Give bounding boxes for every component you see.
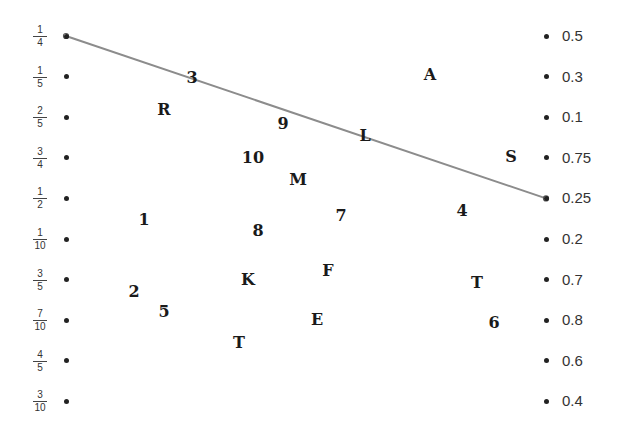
decimal-label: 0.8	[562, 312, 583, 328]
fraction-numerator: 1	[33, 66, 47, 78]
left-connect-dot[interactable]	[64, 115, 69, 120]
right-connect-dot[interactable]	[544, 196, 549, 201]
right-connect-dot[interactable]	[544, 277, 549, 282]
fraction-numerator: 2	[33, 106, 47, 118]
scattered-glyph: E	[311, 312, 323, 328]
decimal-label: 0.5	[562, 28, 583, 44]
scattered-glyph: 10	[242, 150, 264, 166]
decimal-label: 0.6	[562, 353, 583, 369]
right-connect-dot[interactable]	[544, 318, 549, 323]
scattered-glyph: L	[359, 128, 370, 144]
fraction-label: 34	[28, 147, 52, 170]
scattered-glyph: T	[233, 335, 245, 351]
scattered-glyph: R	[157, 102, 170, 118]
left-connect-dot[interactable]	[64, 74, 69, 79]
decimal-label: 0.2	[562, 231, 583, 247]
fraction-numerator: 7	[33, 309, 47, 321]
fraction-label: 12	[28, 187, 52, 210]
right-connect-dot[interactable]	[544, 237, 549, 242]
fraction-numerator: 1	[33, 187, 47, 199]
scattered-glyph: 1	[138, 212, 149, 228]
fraction-numerator: 3	[33, 390, 47, 402]
fraction-label: 14	[28, 25, 52, 48]
scattered-glyph: 3	[186, 70, 197, 86]
fraction-label: 710	[28, 309, 52, 332]
right-connect-dot[interactable]	[544, 34, 549, 39]
fraction-denominator: 5	[28, 118, 52, 129]
fraction-denominator: 5	[28, 78, 52, 89]
fraction-label: 310	[28, 390, 52, 413]
fraction-denominator: 10	[28, 321, 52, 332]
scattered-glyph: T	[471, 275, 483, 291]
left-connect-dot[interactable]	[64, 358, 69, 363]
scattered-glyph: 2	[128, 284, 139, 300]
scattered-glyph: A	[424, 67, 436, 83]
scattered-glyph: 8	[252, 223, 263, 239]
left-connect-dot[interactable]	[64, 34, 69, 39]
scattered-glyph: 4	[456, 203, 467, 219]
fraction-numerator: 4	[33, 350, 47, 362]
fraction-label: 45	[28, 350, 52, 373]
left-connect-dot[interactable]	[64, 399, 69, 404]
fraction-denominator: 4	[28, 159, 52, 170]
right-connect-dot[interactable]	[544, 399, 549, 404]
fraction-numerator: 3	[33, 269, 47, 281]
scattered-glyph: S	[505, 149, 517, 165]
scattered-glyph: M	[289, 172, 307, 188]
decimal-label: 0.3	[562, 69, 583, 85]
left-connect-dot[interactable]	[64, 196, 69, 201]
scattered-glyph: 5	[158, 304, 169, 320]
fraction-label: 25	[28, 106, 52, 129]
match-lines-layer	[0, 0, 623, 435]
fraction-label: 110	[28, 228, 52, 251]
fraction-label: 35	[28, 269, 52, 292]
fraction-denominator: 5	[28, 281, 52, 292]
decimal-label: 0.25	[562, 190, 591, 206]
scattered-glyph: 7	[335, 208, 346, 224]
scattered-glyph: F	[322, 263, 333, 279]
right-connect-dot[interactable]	[544, 74, 549, 79]
fraction-denominator: 10	[28, 402, 52, 413]
fraction-denominator: 2	[28, 199, 52, 210]
matching-worksheet: 14152534121103571045310 0.50.30.10.750.2…	[0, 0, 623, 435]
fraction-numerator: 1	[33, 25, 47, 37]
fraction-numerator: 3	[33, 147, 47, 159]
left-connect-dot[interactable]	[64, 318, 69, 323]
left-connect-dot[interactable]	[64, 155, 69, 160]
left-connect-dot[interactable]	[64, 237, 69, 242]
right-connect-dot[interactable]	[544, 155, 549, 160]
fraction-numerator: 1	[33, 228, 47, 240]
decimal-label: 0.1	[562, 109, 583, 125]
fraction-label: 15	[28, 66, 52, 89]
scattered-glyph: 9	[277, 116, 288, 132]
decimal-label: 0.7	[562, 272, 583, 288]
fraction-denominator: 5	[28, 362, 52, 373]
fraction-denominator: 4	[28, 37, 52, 48]
scattered-glyph: 6	[488, 315, 499, 331]
fraction-denominator: 10	[28, 240, 52, 251]
right-connect-dot[interactable]	[544, 358, 549, 363]
decimal-label: 0.4	[562, 393, 583, 409]
scattered-glyph: K	[241, 272, 255, 288]
decimal-label: 0.75	[562, 150, 591, 166]
right-connect-dot[interactable]	[544, 115, 549, 120]
left-connect-dot[interactable]	[64, 277, 69, 282]
